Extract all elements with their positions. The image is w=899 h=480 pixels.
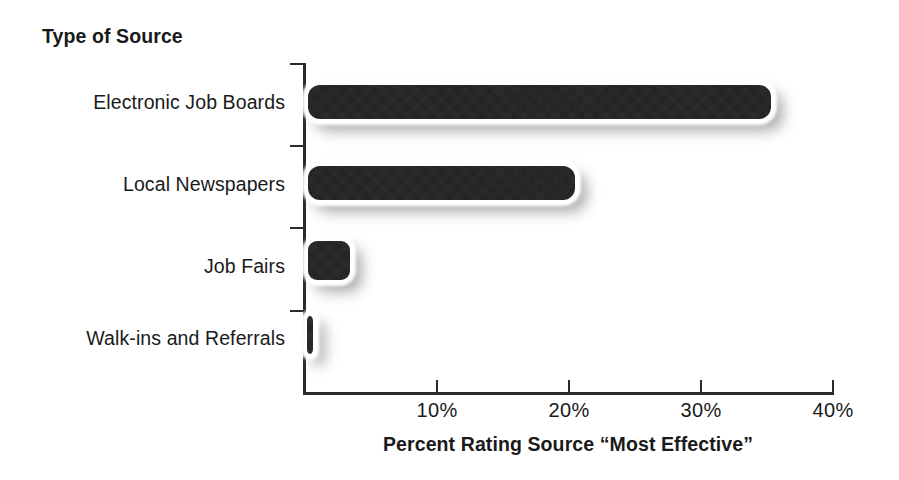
bar-fill [308,241,350,280]
y-axis-tick [290,227,304,229]
bar-fill [307,316,313,354]
x-axis-tick-label-30: 30% [681,399,722,422]
x-axis-tick-label-10: 10% [417,399,458,422]
bar-electronic-job-boards [305,82,774,122]
y-axis-tick [290,310,304,312]
x-axis-tick-10 [436,380,438,393]
x-axis-tick-0 [304,380,306,393]
category-label-job-fairs: Job Fairs [204,257,285,277]
x-axis-tick-30 [700,380,702,393]
bar-fill [308,85,771,119]
y-axis-title: Type of Source [42,25,183,48]
x-axis-title: Percent Rating Source “Most Effective” [383,433,753,456]
bar-fill [308,166,575,200]
bar-job-fairs [305,238,353,283]
category-label-walk-ins-and-referrals: Walk-ins and Referrals [86,329,285,349]
bar-local-newspapers [305,163,578,203]
x-axis-tick-label-40: 40% [813,399,854,422]
y-axis-tick [290,145,304,147]
category-label-electronic-job-boards: Electronic Job Boards [93,93,285,113]
x-axis-tick-20 [568,380,570,393]
y-axis-tick [290,63,304,65]
bar-chart: Type of Source Electronic Job Boards Loc… [0,0,899,480]
x-axis-tick-label-20: 20% [549,399,590,422]
category-label-local-newspapers: Local Newspapers [123,175,285,195]
bar-walk-ins-and-referrals [304,313,316,357]
x-axis-tick-40 [832,380,834,393]
